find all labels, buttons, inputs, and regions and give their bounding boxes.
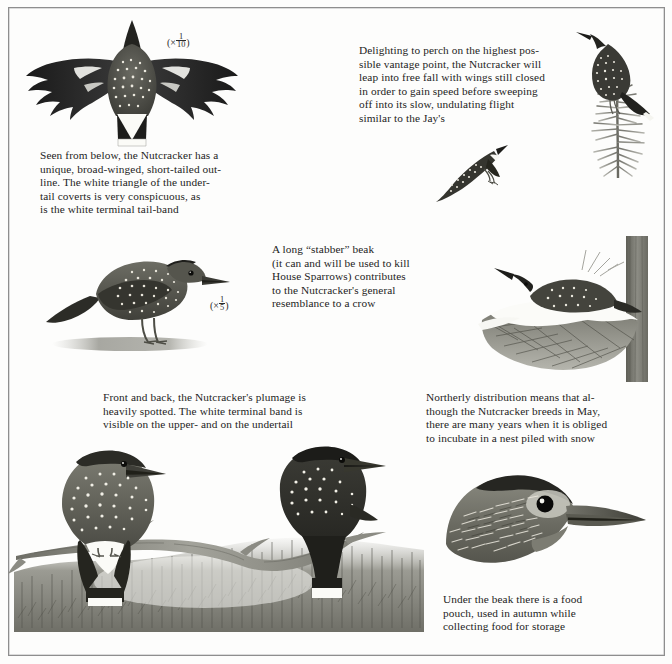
caption-plumage: Front and back, the Nutcracker's plumage… — [103, 391, 403, 432]
caption-perching: Delighting to perch on the highest pos- … — [359, 44, 659, 126]
scale-suffix: ) — [186, 37, 189, 48]
scale-suffix: ) — [225, 300, 228, 311]
scale-fraction: 110 — [176, 33, 186, 48]
nutcracker-on-snowy-nest-illustration — [468, 236, 658, 386]
nutcracker-in-flight-from-below-illustration — [22, 18, 242, 148]
nutcracker-pair-on-branch-illustration — [14, 432, 424, 632]
scale-prefix: (× — [167, 37, 176, 48]
caption-beak: A long “stabber” beak (it can and will b… — [272, 243, 472, 311]
scale-label-one-tenth: (× 110 ) — [167, 33, 190, 48]
nutcracker-diving-wings-closed-illustration — [432, 145, 510, 203]
scale-label-one-fifth: (× 15 ) — [210, 296, 228, 311]
nutcracker-head-close-up-illustration — [440, 462, 655, 582]
plate-page: (× 110 ) Seen from below, the Nutcracker… — [0, 0, 672, 664]
caption-pouch: Under the beak there is a food pouch, us… — [443, 593, 663, 634]
nutcracker-standing-profile-illustration — [34, 238, 234, 358]
scale-prefix: (× — [210, 300, 219, 311]
caption-breeding: Northerly distribution means that al- th… — [426, 391, 666, 445]
caption-underside: Seen from below, the Nutcracker has a un… — [40, 149, 270, 217]
scale-denominator: 10 — [176, 41, 186, 48]
